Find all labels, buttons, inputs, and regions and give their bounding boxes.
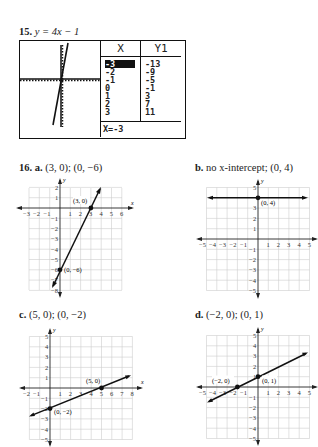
svg-text:3: 3 bbox=[253, 204, 256, 211]
svg-text:−5: −5 bbox=[51, 256, 58, 263]
svg-text:1: 1 bbox=[55, 194, 58, 201]
point-label-3-0: (3, 0) bbox=[73, 197, 87, 205]
svg-text:y: y bbox=[260, 178, 264, 184]
header-divider bbox=[101, 56, 181, 57]
svg-text:5: 5 bbox=[45, 333, 48, 340]
graph-16a: x y −3−2−1 123456 21 −1−2−3−4 −5−6−7−8 (… bbox=[0, 170, 160, 300]
svg-text:1: 1 bbox=[59, 390, 62, 397]
svg-text:−1: −1 bbox=[249, 246, 256, 253]
svg-text:−3: −3 bbox=[219, 241, 226, 248]
svg-text:−2: −2 bbox=[51, 225, 58, 232]
svg-text:−3: −3 bbox=[23, 210, 30, 217]
point-label-neg2-0: (−2, 0) bbox=[212, 377, 230, 385]
calculator-graph bbox=[20, 41, 101, 137]
svg-text:4: 4 bbox=[298, 389, 302, 396]
svg-text:5: 5 bbox=[308, 241, 311, 248]
svg-text:x: x bbox=[130, 200, 134, 206]
status-divider bbox=[101, 121, 181, 122]
svg-text:2: 2 bbox=[69, 390, 72, 397]
problem-16d-text: (−2, 0); (0, 1) bbox=[206, 309, 263, 320]
svg-text:3: 3 bbox=[253, 352, 256, 359]
svg-text:1: 1 bbox=[267, 241, 270, 248]
svg-text:2: 2 bbox=[253, 363, 256, 370]
table-cell-y: 11 bbox=[145, 108, 155, 116]
svg-text:−1: −1 bbox=[41, 395, 48, 402]
calculator-graph-plot bbox=[20, 41, 100, 137]
graph-16c: x y −2−1 1234 5678 54321 −1−2−3−4−5 (5, … bbox=[0, 325, 160, 447]
svg-text:−3: −3 bbox=[51, 235, 58, 242]
problem-16c-label: c. (5, 0); (0, −2) bbox=[19, 309, 86, 320]
svg-text:−1: −1 bbox=[240, 241, 247, 248]
point-label-5-0: (5, 0) bbox=[86, 377, 100, 385]
svg-text:−4: −4 bbox=[249, 277, 257, 284]
point-label-0-4: (0, 4) bbox=[261, 199, 275, 207]
svg-text:−1: −1 bbox=[51, 215, 58, 222]
svg-text:2: 2 bbox=[55, 184, 58, 191]
svg-text:2: 2 bbox=[277, 389, 280, 396]
problem-16d-label: d. (−2, 0); (0, 1) bbox=[195, 309, 263, 320]
table-cell-x: 3 bbox=[105, 108, 110, 116]
svg-text:−3: −3 bbox=[249, 266, 256, 273]
svg-text:−3: −3 bbox=[41, 415, 48, 422]
problem-16c-text: (5, 0); (0, −2) bbox=[29, 309, 86, 320]
svg-text:−4: −4 bbox=[249, 425, 257, 432]
svg-text:5: 5 bbox=[110, 210, 113, 217]
svg-text:5: 5 bbox=[100, 390, 103, 397]
svg-text:y: y bbox=[62, 177, 66, 183]
svg-text:1: 1 bbox=[267, 389, 270, 396]
problem-15-label: 15. y = 4x − 1 bbox=[19, 26, 79, 37]
problem-16c-number: c. bbox=[19, 309, 26, 320]
svg-text:1: 1 bbox=[253, 225, 256, 232]
svg-text:−1: −1 bbox=[240, 389, 247, 396]
problem-15-number: 15. bbox=[19, 26, 32, 37]
y-header: Y1 bbox=[141, 42, 181, 55]
svg-text:2: 2 bbox=[253, 215, 256, 222]
svg-text:8: 8 bbox=[131, 390, 134, 397]
svg-text:1: 1 bbox=[45, 374, 48, 381]
graph-16b: y −5−4−3−2−1 12345 5321 −1−2−3−4−5 (0, 4… bbox=[160, 170, 318, 300]
svg-text:y: y bbox=[260, 326, 264, 332]
svg-text:−8: −8 bbox=[51, 287, 58, 294]
svg-text:5: 5 bbox=[308, 389, 311, 396]
svg-text:−6: −6 bbox=[51, 266, 59, 273]
svg-text:−1: −1 bbox=[249, 394, 256, 401]
svg-text:6: 6 bbox=[110, 390, 114, 397]
svg-text:−5: −5 bbox=[199, 389, 206, 396]
svg-text:4: 4 bbox=[100, 210, 104, 217]
svg-text:−2: −2 bbox=[249, 256, 256, 263]
svg-text:5: 5 bbox=[253, 184, 256, 191]
svg-text:−5: −5 bbox=[41, 436, 48, 443]
svg-text:7: 7 bbox=[120, 390, 124, 397]
graph-16d: y −5−4−3−2−1 12345 54321 −1−2−3−4−5 (−2,… bbox=[160, 325, 318, 447]
svg-text:y: y bbox=[52, 327, 56, 333]
svg-text:−4: −4 bbox=[51, 246, 59, 253]
x-header: X bbox=[101, 42, 140, 55]
svg-text:−2: −2 bbox=[249, 404, 256, 411]
svg-text:−1: −1 bbox=[44, 210, 51, 217]
problem-16d-number: d. bbox=[195, 309, 203, 320]
svg-text:−4: −4 bbox=[209, 389, 217, 396]
svg-text:−4: −4 bbox=[209, 241, 217, 248]
svg-text:5: 5 bbox=[253, 332, 256, 339]
svg-text:2: 2 bbox=[277, 241, 280, 248]
svg-text:−5: −5 bbox=[249, 435, 256, 442]
point-label-0-neg6: (0, −6) bbox=[64, 266, 82, 274]
calculator-screen: X Y1 -3 -2 -1 0 1 2 3 -13 -9 -5 -1 3 7 1… bbox=[19, 40, 186, 139]
svg-text:2: 2 bbox=[79, 210, 82, 217]
svg-text:−2: −2 bbox=[23, 390, 30, 397]
svg-text:6: 6 bbox=[120, 210, 124, 217]
svg-text:−1: −1 bbox=[33, 390, 40, 397]
svg-text:−5: −5 bbox=[199, 241, 206, 248]
svg-text:3: 3 bbox=[287, 241, 290, 248]
svg-text:3: 3 bbox=[45, 353, 48, 360]
svg-text:2: 2 bbox=[45, 364, 48, 371]
calculator-table: X Y1 -3 -2 -1 0 1 2 3 -13 -9 -5 -1 3 7 1… bbox=[101, 41, 184, 137]
svg-text:x: x bbox=[140, 379, 144, 385]
svg-text:−2: −2 bbox=[33, 210, 40, 217]
point-label-0-neg2: (0, −2) bbox=[54, 408, 72, 416]
point-label-0-1: (0, 1) bbox=[262, 377, 276, 385]
status-line: X=-3 bbox=[103, 124, 123, 134]
svg-text:3: 3 bbox=[287, 389, 290, 396]
svg-text:−5: −5 bbox=[249, 287, 256, 294]
svg-text:4: 4 bbox=[298, 241, 302, 248]
